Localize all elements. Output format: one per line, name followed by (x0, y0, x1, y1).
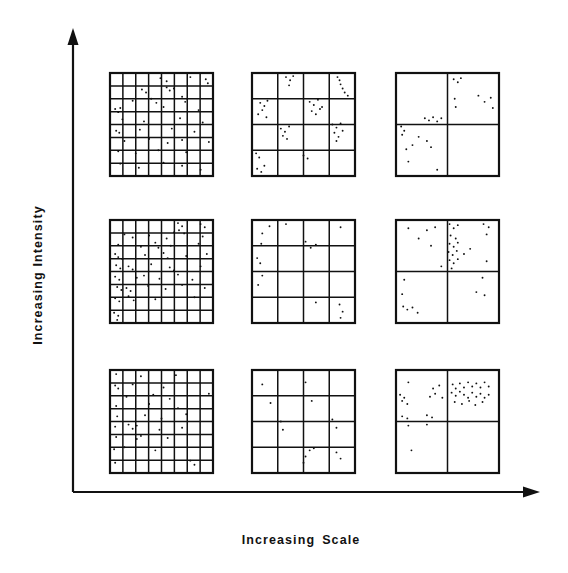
data-point (430, 245, 432, 247)
data-point (148, 138, 150, 140)
data-point (144, 254, 146, 256)
data-point (480, 393, 482, 395)
y-axis-label: Increasing Intensity (31, 175, 45, 375)
data-point (121, 118, 123, 120)
data-point (150, 263, 152, 265)
data-point (475, 396, 477, 398)
data-point (406, 417, 408, 419)
data-point (270, 402, 272, 404)
data-point (117, 244, 119, 246)
data-point (166, 86, 168, 88)
data-point (305, 381, 307, 383)
data-point (206, 253, 208, 255)
data-point (406, 403, 408, 405)
data-point (457, 81, 459, 83)
data-point (432, 388, 434, 390)
data-point (457, 224, 459, 226)
data-point (163, 387, 165, 389)
data-point (207, 82, 209, 84)
data-point (267, 100, 269, 102)
data-point (113, 448, 115, 450)
data-point (486, 233, 488, 235)
data-point (163, 252, 165, 254)
data-point (438, 385, 440, 387)
data-point (305, 241, 307, 243)
data-point (128, 424, 130, 426)
data-point (154, 449, 156, 451)
data-point (418, 136, 420, 138)
data-point (208, 393, 210, 395)
data-point (132, 100, 134, 102)
data-point (317, 99, 319, 101)
data-point (471, 392, 473, 394)
data-point (424, 117, 426, 119)
data-point (132, 237, 134, 239)
data-point (185, 255, 187, 257)
data-point (463, 253, 465, 255)
data-point (121, 258, 123, 260)
data-point (347, 95, 349, 97)
data-point (313, 104, 315, 106)
data-point (401, 415, 403, 417)
data-point (288, 84, 290, 86)
data-point (269, 225, 271, 227)
data-point (258, 157, 260, 159)
data-point (177, 274, 179, 276)
data-point (148, 403, 150, 405)
data-point (178, 229, 180, 231)
data-point (208, 141, 210, 143)
data-point (255, 152, 257, 154)
data-point (132, 268, 134, 270)
data-point (453, 78, 455, 80)
data-point (128, 295, 130, 297)
data-point (147, 285, 149, 287)
data-point (130, 290, 132, 292)
data-point (191, 279, 193, 281)
data-point (257, 284, 259, 286)
data-point (202, 121, 204, 123)
data-point (289, 79, 291, 81)
data-point (198, 109, 200, 111)
data-point (259, 262, 261, 264)
figure-root: Increasing Intensity IncreasingScale (0, 0, 568, 573)
data-point (311, 110, 313, 112)
data-point (175, 374, 177, 376)
data-point (167, 142, 169, 144)
data-point (342, 311, 344, 313)
data-point (169, 266, 171, 268)
data-point (148, 235, 150, 237)
data-point (204, 287, 206, 289)
data-point (449, 223, 451, 225)
data-point (166, 80, 168, 82)
data-point (173, 88, 175, 90)
data-point (344, 92, 346, 94)
data-point (261, 109, 263, 111)
data-point (434, 226, 436, 228)
data-point (113, 312, 115, 314)
data-point (117, 315, 119, 317)
data-point (173, 231, 175, 233)
data-point (461, 403, 463, 405)
data-point (403, 130, 405, 132)
data-point (459, 382, 461, 384)
data-point (484, 397, 486, 399)
data-point (150, 98, 152, 100)
data-point (132, 383, 134, 385)
data-point (116, 319, 118, 321)
data-point (475, 291, 477, 293)
data-point (426, 414, 428, 416)
data-point (119, 107, 121, 109)
data-point (315, 244, 317, 246)
data-point (285, 76, 287, 78)
data-point (451, 392, 453, 394)
data-point (261, 275, 263, 277)
data-point (338, 136, 340, 138)
x-axis-label: IncreasingScale (186, 533, 416, 547)
data-point (152, 394, 154, 396)
data-point (452, 254, 454, 256)
data-point (336, 127, 338, 129)
data-point (284, 131, 286, 133)
data-point (155, 102, 157, 104)
data-point (454, 98, 456, 100)
data-point (418, 238, 420, 240)
